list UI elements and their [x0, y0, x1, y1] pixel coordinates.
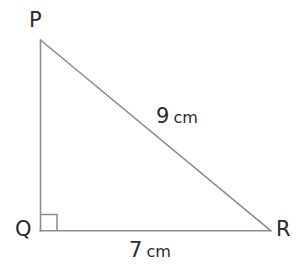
- base-length-label: 7cm: [129, 240, 171, 262]
- hypotenuse-length-label: 9cm: [156, 106, 198, 128]
- triangle-canvas: [0, 0, 296, 280]
- base-length-value: 7: [129, 238, 142, 262]
- vertex-label-r: R: [276, 219, 291, 240]
- triangle-figure: P Q R 9cm 7cm: [0, 0, 296, 280]
- right-angle-marker-icon: [41, 215, 57, 231]
- side-PR-hypotenuse-line: [41, 40, 272, 231]
- vertex-label-q: Q: [15, 219, 32, 240]
- hypotenuse-length-unit: cm: [173, 108, 197, 127]
- base-length-unit: cm: [146, 242, 170, 261]
- hypotenuse-length-value: 9: [156, 104, 169, 128]
- vertex-label-p: P: [29, 10, 42, 31]
